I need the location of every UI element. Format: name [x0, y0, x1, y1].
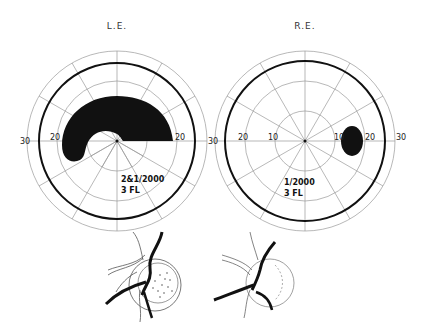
left-fixation-point [116, 140, 119, 143]
left-arcuate-scotoma [62, 96, 173, 161]
left-optic-disc-drawing [106, 232, 181, 322]
right-label-10-left: 10 [268, 133, 278, 142]
visual-field-figure: L.E. 30 20 20 2&1/2000 3 FL R.E [0, 0, 422, 330]
right-label-20-left: 20 [238, 133, 248, 142]
right-eye-title: R.E. [294, 21, 315, 31]
left-label-20-left: 20 [50, 133, 60, 142]
left-eye-chart: L.E. 30 20 20 2&1/2000 3 FL [20, 21, 207, 231]
right-eye-chart: R.E. 30 20 10 10 20 30 1/2000 3 FL [208, 21, 406, 231]
right-fixation-point [304, 140, 307, 143]
left-label-30: 30 [20, 137, 30, 146]
left-label-20-right: 20 [175, 133, 185, 142]
right-optic-disc-drawing [214, 232, 294, 318]
right-luminance: 3 FL [284, 189, 303, 198]
left-luminance: 3 FL [121, 186, 140, 195]
right-label-30-left: 30 [208, 137, 218, 146]
right-label-30-right: 30 [396, 133, 406, 142]
right-blind-spot [341, 126, 363, 156]
right-label-20-right: 20 [365, 133, 375, 142]
right-label-10-right: 10 [334, 133, 344, 142]
left-test-object: 2&1/2000 [121, 175, 165, 184]
right-test-object: 1/2000 [284, 178, 315, 187]
left-eye-title: L.E. [107, 21, 127, 31]
